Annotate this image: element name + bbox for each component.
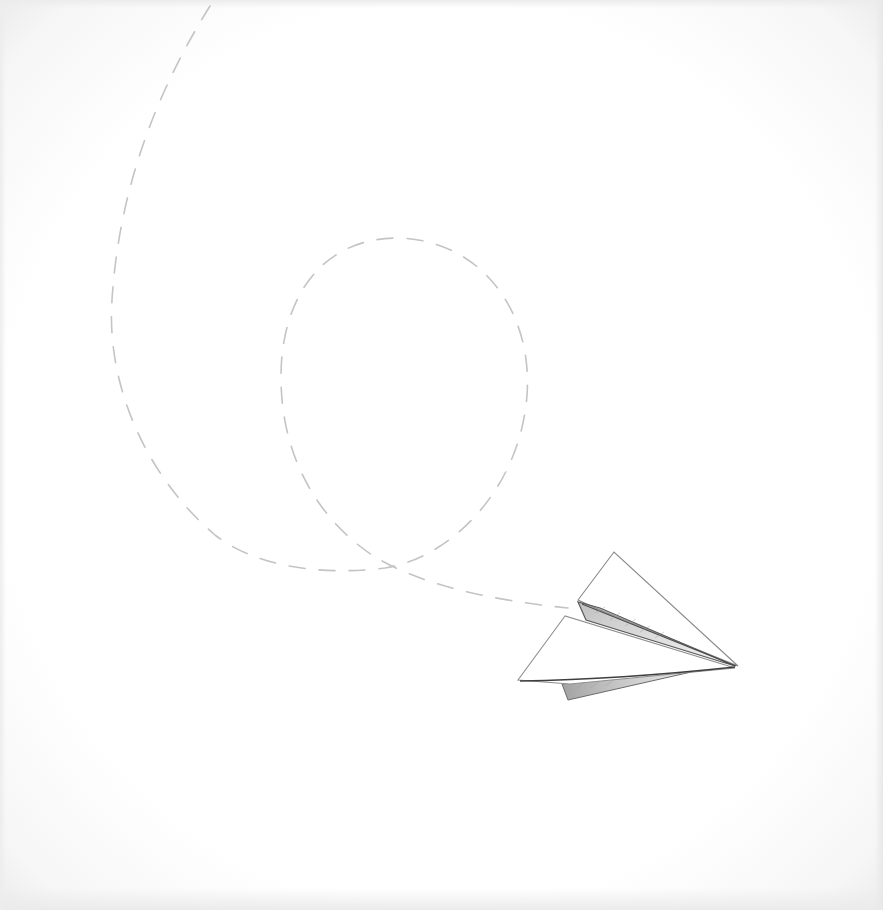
sketch-drawing: [0, 0, 883, 910]
flight-path: [111, 6, 568, 608]
sketch-canvas: Pencil sketch of a paper airplane with a…: [0, 0, 883, 910]
paper-airplane: [518, 552, 738, 700]
